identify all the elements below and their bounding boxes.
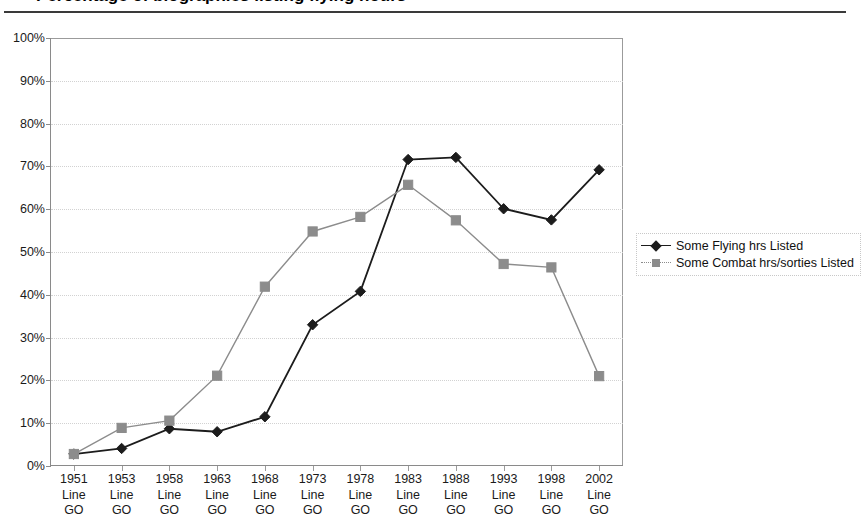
x-label-line-2: GO xyxy=(346,503,374,519)
y-tick-90 xyxy=(46,81,51,82)
x-label-line-2: GO xyxy=(203,503,231,519)
y-tick-label-90: 90% xyxy=(4,75,45,87)
gridline-80 xyxy=(51,124,623,125)
x-label-line-2: GO xyxy=(394,503,422,519)
x-label-line-1: Line xyxy=(108,488,136,504)
x-label-line-1: Line xyxy=(394,488,422,504)
x-label-line-1: Line xyxy=(155,488,183,504)
x-label-line-0: 1958 xyxy=(155,472,183,488)
x-label-line-2: GO xyxy=(108,503,136,519)
x-label-line-2: GO xyxy=(585,503,613,519)
x-label-line-2: GO xyxy=(299,503,327,519)
legend-label: Some Flying hrs Listed xyxy=(676,239,803,253)
y-tick-label-40: 40% xyxy=(4,289,45,301)
x-label-line-0: 1951 xyxy=(60,472,88,488)
x-label-line-0: 1983 xyxy=(394,472,422,488)
y-tick-80 xyxy=(46,124,51,125)
x-label-line-0: 1968 xyxy=(251,472,279,488)
x-tick-label-1998: 1998LineGO xyxy=(537,472,565,519)
x-tick-label-1951: 1951LineGO xyxy=(60,472,88,519)
x-label-line-0: 1993 xyxy=(490,472,518,488)
x-label-line-1: Line xyxy=(251,488,279,504)
x-tick-1968 xyxy=(265,466,266,471)
x-tick-1951 xyxy=(74,466,75,471)
x-label-line-2: GO xyxy=(251,503,279,519)
legend-item-2[interactable]: Some Combat hrs/sorties Listed xyxy=(641,254,854,271)
x-label-line-2: GO xyxy=(442,503,470,519)
gridline-30 xyxy=(51,338,623,339)
y-tick-label-80: 80% xyxy=(4,118,45,130)
x-tick-label-2002: 2002LineGO xyxy=(585,472,613,519)
x-label-line-1: Line xyxy=(203,488,231,504)
legend-marker-swatch xyxy=(652,259,660,267)
x-label-line-1: Line xyxy=(60,488,88,504)
y-tick-70 xyxy=(46,166,51,167)
y-tick-10 xyxy=(46,423,51,424)
x-tick-1958 xyxy=(169,466,170,471)
x-tick-label-1983: 1983LineGO xyxy=(394,472,422,519)
x-tick-1953 xyxy=(122,466,123,471)
chart-legend: Some Flying hrs ListedSome Combat hrs/so… xyxy=(636,233,861,276)
x-label-line-0: 1953 xyxy=(108,472,136,488)
y-tick-60 xyxy=(46,209,51,210)
y-tick-40 xyxy=(46,295,51,296)
y-tick-30 xyxy=(46,338,51,339)
legend-label: Some Combat hrs/sorties Listed xyxy=(676,256,854,270)
y-tick-100 xyxy=(46,38,51,39)
x-label-line-0: 1978 xyxy=(346,472,374,488)
y-axis-labels: 0%10%20%30%40%50%60%70%80%90%100% xyxy=(0,38,45,466)
x-tick-label-1993: 1993LineGO xyxy=(490,472,518,519)
x-label-line-0: 1963 xyxy=(203,472,231,488)
gridline-50 xyxy=(51,252,623,253)
y-tick-label-30: 30% xyxy=(4,332,45,344)
y-tick-50 xyxy=(46,252,51,253)
x-label-line-2: GO xyxy=(490,503,518,519)
x-tick-2002 xyxy=(599,466,600,471)
x-tick-label-1988: 1988LineGO xyxy=(442,472,470,519)
y-tick-label-0: 0% xyxy=(4,460,45,472)
x-label-line-1: Line xyxy=(537,488,565,504)
x-axis-labels: 1951LineGO1953LineGO1958LineGO1963LineGO… xyxy=(50,472,623,522)
x-label-line-0: 2002 xyxy=(585,472,613,488)
y-tick-label-50: 50% xyxy=(4,246,45,258)
x-label-line-1: Line xyxy=(346,488,374,504)
x-label-line-1: Line xyxy=(442,488,470,504)
gridline-40 xyxy=(51,295,623,296)
legend-item-1[interactable]: Some Flying hrs Listed xyxy=(641,237,854,254)
diamond-marker-icon xyxy=(641,239,671,252)
gridline-90 xyxy=(51,81,623,82)
y-tick-label-10: 10% xyxy=(4,417,45,429)
x-tick-1983 xyxy=(408,466,409,471)
x-label-line-2: GO xyxy=(537,503,565,519)
gridline-60 xyxy=(51,209,623,210)
gridline-10 xyxy=(51,423,623,424)
square-marker-icon xyxy=(641,256,671,269)
x-label-line-0: 1988 xyxy=(442,472,470,488)
gridline-70 xyxy=(51,166,623,167)
x-tick-label-1963: 1963LineGO xyxy=(203,472,231,519)
x-tick-label-1978: 1978LineGO xyxy=(346,472,374,519)
x-tick-label-1958: 1958LineGO xyxy=(155,472,183,519)
y-tick-20 xyxy=(46,380,51,381)
x-tick-label-1973: 1973LineGO xyxy=(299,472,327,519)
x-label-line-1: Line xyxy=(299,488,327,504)
x-label-line-0: 1973 xyxy=(299,472,327,488)
x-tick-label-1953: 1953LineGO xyxy=(108,472,136,519)
title-divider xyxy=(4,11,846,13)
plot-area xyxy=(50,38,623,466)
x-tick-1973 xyxy=(313,466,314,471)
page-title: Percentage of biographies listing flying… xyxy=(36,0,406,6)
x-label-line-2: GO xyxy=(155,503,183,519)
x-tick-1993 xyxy=(504,466,505,471)
y-tick-label-100: 100% xyxy=(4,32,45,44)
gridline-20 xyxy=(51,380,623,381)
x-tick-1998 xyxy=(551,466,552,471)
x-label-line-0: 1998 xyxy=(537,472,565,488)
x-tick-label-1968: 1968LineGO xyxy=(251,472,279,519)
y-tick-label-60: 60% xyxy=(4,203,45,215)
x-label-line-1: Line xyxy=(585,488,613,504)
legend-marker-swatch xyxy=(650,240,661,251)
x-tick-1963 xyxy=(217,466,218,471)
x-tick-1978 xyxy=(360,466,361,471)
